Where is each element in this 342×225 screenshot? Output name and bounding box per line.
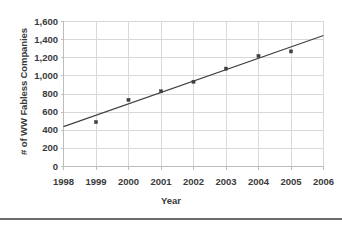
y-tick-label: 600	[8, 107, 58, 117]
chart-figure: # of WW Fabless Companies 02004006008001…	[0, 0, 342, 225]
y-axis-tick-labels: 02004006008001,0001,2001,4001,600	[8, 0, 58, 225]
y-tick-label: 1,000	[8, 71, 58, 81]
x-axis-tick-labels: 199819992000200120022003200420052006	[0, 176, 342, 190]
y-tick-label: 0	[8, 162, 58, 172]
x-tick-label: 2006	[304, 176, 342, 188]
bottom-divider	[0, 218, 342, 220]
y-tick-label: 200	[8, 143, 58, 153]
x-axis-title: Year	[0, 195, 342, 206]
y-tick-label: 1,600	[8, 17, 58, 27]
axis-lines	[61, 22, 324, 170]
y-tick-label: 1,200	[8, 53, 58, 63]
y-tick-label: 800	[8, 89, 58, 99]
y-tick-label: 400	[8, 125, 58, 135]
y-tick-label: 1,400	[8, 35, 58, 45]
